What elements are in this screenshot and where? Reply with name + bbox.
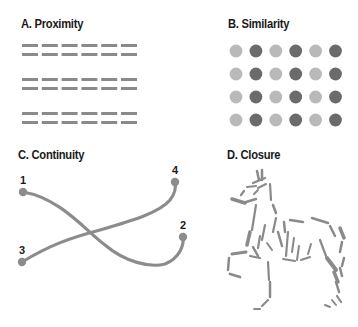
horse-outline-icon bbox=[0, 0, 358, 327]
